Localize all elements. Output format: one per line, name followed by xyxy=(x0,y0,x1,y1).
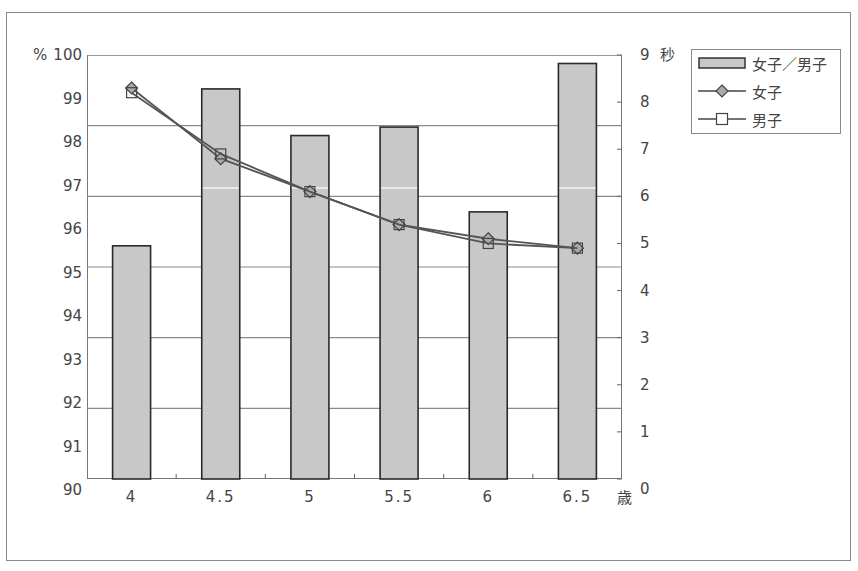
x-tick-label: 5.5 xyxy=(379,490,419,505)
bar xyxy=(558,63,596,479)
diamond-marker-icon xyxy=(698,84,746,98)
legend: 女子／男子 女子 男子 xyxy=(691,49,841,134)
x-axis-unit: 歳 xyxy=(617,491,632,506)
left-tick-label: 92 xyxy=(48,396,82,411)
right-tick-label: 8 xyxy=(640,95,650,110)
left-tick-label: 97 xyxy=(48,179,82,194)
bar xyxy=(113,246,151,479)
right-tick-label: 6 xyxy=(640,189,650,204)
left-tick-label: 93 xyxy=(48,353,82,368)
left-tick-label: 94 xyxy=(48,309,82,324)
left-tick-label: 99 xyxy=(48,92,82,107)
left-tick-label: 98 xyxy=(48,135,82,150)
right-tick-label: 9 xyxy=(640,48,650,63)
left-tick-label: 95 xyxy=(48,266,82,281)
legend-item-ratio: 女子／男子 xyxy=(698,52,827,74)
bar-swatch-icon xyxy=(698,56,746,70)
legend-label: 女子／男子 xyxy=(752,53,827,74)
x-tick-label: 4 xyxy=(112,490,152,505)
left-axis-unit: % xyxy=(33,48,47,63)
bar xyxy=(469,212,507,479)
x-tick-label: 4.5 xyxy=(201,490,241,505)
legend-item-boys: 男子 xyxy=(698,108,782,130)
right-tick-label: 5 xyxy=(640,236,650,251)
right-tick-label: 0 xyxy=(640,482,650,497)
left-tick-label: 96 xyxy=(48,222,82,237)
x-tick-label: 6 xyxy=(468,490,508,505)
left-tick-label: 100 xyxy=(48,48,82,63)
right-tick-label: 4 xyxy=(640,284,650,299)
legend-label: 女子 xyxy=(752,81,782,102)
right-axis-unit: 秒 xyxy=(660,48,675,63)
x-tick-label: 5 xyxy=(290,490,330,505)
bar xyxy=(380,127,418,479)
right-tick-label: 1 xyxy=(640,425,650,440)
x-tick-label: 6.5 xyxy=(557,490,597,505)
square-marker-icon xyxy=(698,112,746,126)
line-square xyxy=(132,93,578,248)
right-tick-label: 3 xyxy=(640,331,650,346)
left-tick-label: 91 xyxy=(48,440,82,455)
legend-item-girls: 女子 xyxy=(698,80,782,102)
line-diamond xyxy=(132,88,578,248)
legend-label: 男子 xyxy=(752,109,782,130)
right-tick-label: 7 xyxy=(640,142,650,157)
right-tick-label: 2 xyxy=(640,378,650,393)
left-tick-label: 90 xyxy=(48,483,82,498)
